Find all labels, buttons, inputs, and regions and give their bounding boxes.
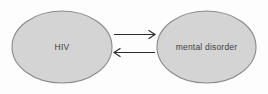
node-hiv[interactable]: HIV bbox=[12, 11, 112, 83]
node-hiv-label: HIV bbox=[55, 42, 70, 52]
arrow-hiv-to-mental-disorder bbox=[114, 30, 155, 38]
diagram-canvas: HIV mental disorder bbox=[0, 0, 268, 94]
relationship-diagram: HIV mental disorder bbox=[0, 0, 268, 94]
node-mental-disorder[interactable]: mental disorder bbox=[157, 11, 256, 83]
arrow-mental-disorder-to-hiv bbox=[114, 48, 155, 56]
node-mental-disorder-label: mental disorder bbox=[176, 42, 238, 52]
